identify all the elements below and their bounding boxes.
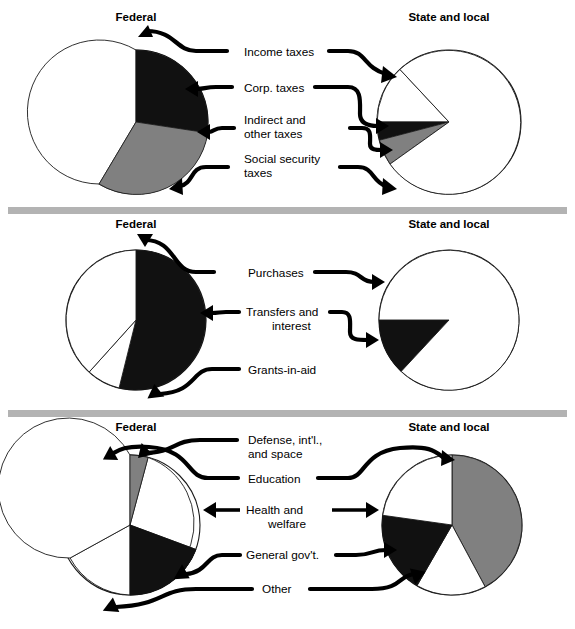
connector-general-govt-federal [186, 555, 240, 574]
label-grants-in-aid: Grants-in-aid [248, 363, 316, 377]
label-social-security-line2: taxes [244, 166, 272, 180]
connector-corp-taxes-state [315, 87, 378, 126]
connector-corp-taxes-federal [197, 87, 232, 89]
connector-purchases-state [315, 272, 374, 282]
panel-functions-right-title: State and local [408, 421, 489, 433]
label-income-taxes: Income taxes [244, 45, 314, 59]
label-defense-line1: Defense, int'l., [248, 433, 322, 447]
label-indirect-taxes-line1: Indirect and [244, 113, 306, 127]
label-defense-line2: and space [248, 447, 303, 461]
connector-transfers-federal [212, 312, 239, 313]
label-health-welfare-line2: welfare [267, 517, 306, 531]
label-transfers-line1: Transfers and [246, 305, 318, 319]
pie-receipts-state-local [377, 50, 521, 194]
panel-divider-2 [8, 410, 567, 417]
pie-receipts-federal [27, 40, 208, 195]
label-general-govt: General gov't. [246, 548, 319, 562]
panel-functions: Federal State and local [0, 418, 522, 617]
label-education: Education [248, 472, 300, 486]
panel-receipts-right-title: State and local [408, 11, 489, 23]
arrowhead-other-federal [100, 597, 120, 617]
connector-income-taxes-federal [147, 31, 227, 51]
connector-social-security-state [340, 167, 386, 186]
label-purchases: Purchases [248, 266, 304, 280]
pie-outlays-state-local [379, 250, 519, 390]
arrowhead-health-federal [203, 502, 216, 518]
arrowhead-social-security-state [382, 178, 397, 195]
arrowhead-transfers-state [366, 332, 379, 348]
panel-divider-1 [8, 207, 567, 214]
panel-functions-left-title: Federal [116, 421, 157, 433]
connector-other-state [310, 574, 414, 589]
panel-receipts-left-title: Federal [116, 11, 157, 23]
panel-receipts: Federal State and local Inco [27, 11, 521, 195]
pie-functions-state-local [382, 455, 522, 595]
panel-outlays-left-title: Federal [116, 218, 157, 230]
pie-functions-federal [0, 418, 200, 595]
connector-indirect-taxes-federal [209, 128, 234, 132]
panel-outlays: Federal State and local Purchases Transf… [66, 218, 519, 405]
connector-transfers-state [330, 312, 368, 340]
label-transfers-line2: interest [272, 319, 311, 333]
label-indirect-taxes-line2: other taxes [244, 127, 302, 141]
connector-income-taxes-state [329, 51, 386, 74]
arrowhead-purchases-state [372, 274, 385, 290]
connector-general-govt-state [336, 550, 386, 555]
panel-outlays-right-title: State and local [408, 218, 489, 230]
arrowhead-health-state [366, 502, 379, 518]
label-health-welfare-line1: Health and [246, 503, 303, 517]
government-finance-pie-figure: Federal State and local Inco [0, 0, 575, 629]
label-corp-taxes: Corp. taxes [244, 81, 304, 95]
label-other: Other [262, 582, 292, 596]
label-social-security-line1: Social security [244, 152, 320, 166]
